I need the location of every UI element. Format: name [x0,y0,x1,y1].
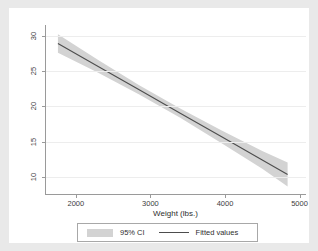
y-tickmark-15 [42,142,46,143]
y-tickmark-30 [42,36,46,37]
legend-label-fitted: Fitted values [196,228,239,237]
gridline-20 [46,106,306,107]
legend-label-ci: 95% CI [120,228,145,237]
x-tickmark-5000 [300,194,301,198]
x-ticklabel-2000: 2000 [67,199,84,208]
x-ticklabel-4000: 4000 [217,199,234,208]
plot-inner [46,25,306,194]
y-ticklabel-10: 10 [30,173,38,182]
y-ticklabel-20: 20 [30,102,38,111]
plot-svg [46,25,306,194]
legend-item-ci: 95% CI [78,228,145,237]
y-tickmark-10 [42,177,46,178]
x-axis-title: Weight (lbs.) [45,209,306,218]
gridline-25 [46,71,306,72]
chart-figure: 30 25 20 15 10 [0,0,318,251]
fitted-line [58,43,288,174]
y-ticklabel-15: 15 [30,137,38,146]
gridline-10 [46,177,306,178]
gridline-30 [46,36,306,37]
x-tickmark-2000 [76,194,77,198]
y-ticklabel-30: 30 [30,31,38,40]
line-swatch-icon [159,232,189,233]
ci-band [58,34,288,186]
gridline-15 [46,142,306,143]
y-tickmark-20 [42,106,46,107]
chart-legend: 95% CI Fitted values [77,223,258,242]
x-tickmark-4000 [225,194,226,198]
x-ticklabel-5000: 5000 [291,199,308,208]
y-tickmark-25 [42,71,46,72]
legend-item-fitted: Fitted values [145,228,239,237]
x-tickmark-3000 [150,194,151,198]
band-swatch-icon [87,229,113,237]
x-ticklabel-3000: 3000 [142,199,159,208]
y-ticklabel-25: 25 [30,67,38,76]
chart-canvas: 30 25 20 15 10 [9,8,309,243]
plot-region: 30 25 20 15 10 [45,25,306,195]
